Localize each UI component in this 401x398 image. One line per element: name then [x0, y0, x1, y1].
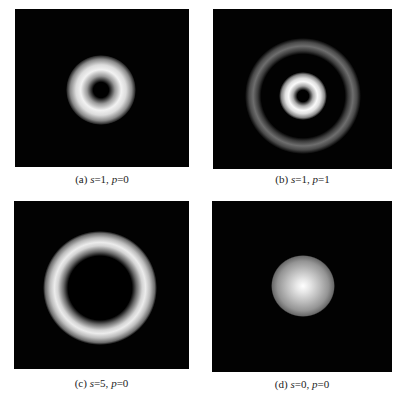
caption-c: (c) s=5, p=0: [14, 377, 189, 389]
caption-c-p-value: =0: [117, 377, 129, 389]
caption-b-label: (b): [275, 173, 288, 185]
caption-d-p-value: =0: [317, 378, 329, 390]
donut-beam-s1-p0: [66, 55, 136, 125]
caption-c-s-value: =5,: [94, 377, 111, 389]
panel-b-intensity-image: [213, 9, 392, 169]
inner-donut-beam-s1-p1: [279, 72, 327, 120]
caption-d: (d) s=0, p=0: [212, 378, 392, 390]
panel-d-intensity-image: [212, 201, 392, 372]
ring-beam-s5-p0: [43, 231, 157, 345]
caption-a: (a) s=1, p=0: [15, 173, 189, 185]
caption-b: (b) s=1, p=1: [213, 173, 392, 185]
caption-c-label: (c): [75, 377, 87, 389]
caption-a-label: (a): [75, 173, 87, 185]
panel-c-intensity-image: [14, 201, 189, 369]
caption-d-s-value: =0,: [295, 378, 312, 390]
caption-d-label: (d): [275, 378, 288, 390]
gaussian-spot-s0-p0: [271, 255, 335, 317]
caption-b-p-value: =1: [318, 173, 330, 185]
caption-a-p-value: =0: [117, 173, 129, 185]
panel-a-intensity-image: [15, 9, 189, 167]
caption-a-s-value: =1,: [94, 173, 111, 185]
caption-b-s-value: =1,: [295, 173, 312, 185]
